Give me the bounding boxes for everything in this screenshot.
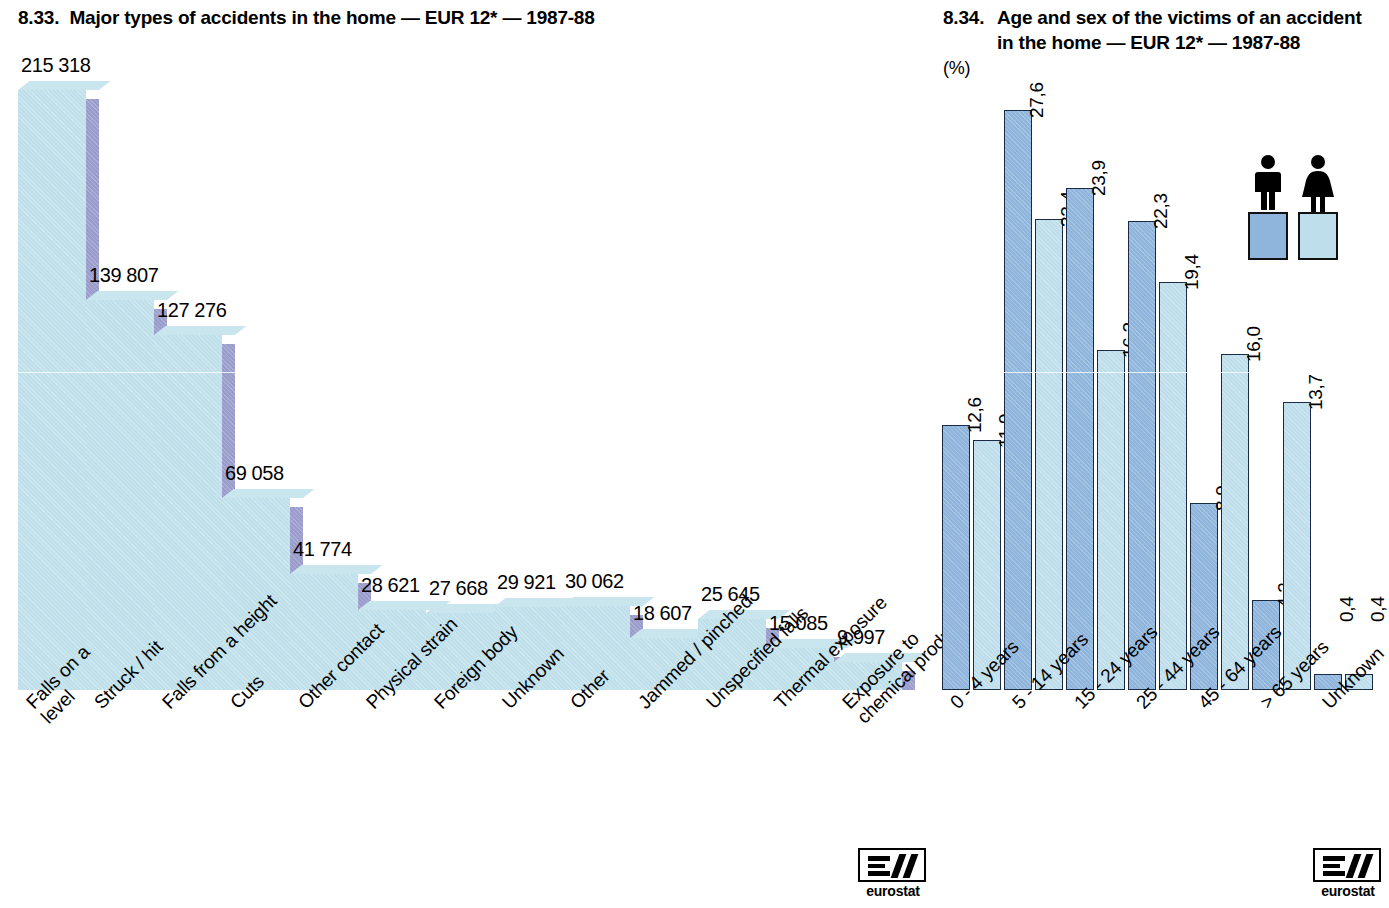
right-chart-title-unit: (%): [943, 58, 970, 78]
eurostat-wordmark: eurostat: [858, 883, 928, 899]
left-chart-title: 8.33. Major types of accidents in the ho…: [18, 5, 595, 30]
eurostat-logo-left: eurostat: [858, 848, 928, 899]
eurostat-logo-icon: [858, 848, 926, 882]
eurostat-logo-icon: [1313, 848, 1381, 882]
eurostat-wordmark: eurostat: [1313, 883, 1383, 899]
category-label-10: Jammed / pinched: [634, 590, 756, 712]
category-label-8: Unknown: [498, 643, 568, 713]
category-label-4: Cuts: [226, 671, 268, 713]
left-chart-panel: 215 318139 807127 27669 05841 77428 6212…: [0, 60, 930, 690]
left-chart-category-axis: Falls on a levelStruck / hitFalls from a…: [0, 60, 930, 690]
sex-legend: [1248, 152, 1344, 262]
legend-swatch-male: [1248, 212, 1288, 260]
female-figure-icon: [1298, 154, 1338, 216]
category-label-9: Other: [566, 665, 614, 713]
male-figure-icon: [1248, 154, 1288, 216]
category-label-1: Falls on a level: [22, 641, 109, 728]
right-chart-title-text: Age and sex of the victims of an acciden…: [997, 5, 1367, 55]
eurostat-logo-right: eurostat: [1313, 848, 1383, 899]
right-chart-title-number: 8.34.: [943, 5, 997, 30]
legend-swatch-female: [1298, 212, 1338, 260]
right-chart-title: 8.34.Age and sex of the victims of an ac…: [943, 5, 1383, 81]
category-label-3: Falls from a height: [158, 590, 281, 713]
